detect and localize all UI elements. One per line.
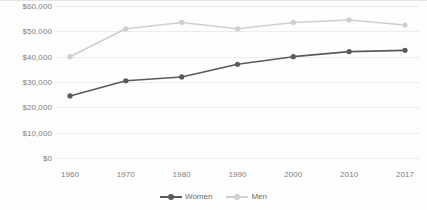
series-men xyxy=(67,17,407,59)
series-line xyxy=(70,50,405,96)
data-point xyxy=(123,78,128,83)
legend-item-men[interactable]: Men xyxy=(226,193,267,201)
data-point xyxy=(235,26,240,31)
legend-item-women[interactable]: Women xyxy=(160,193,212,201)
x-axis-tick-label: 2000 xyxy=(284,170,302,179)
legend-label: Men xyxy=(251,193,267,201)
y-axis-tick-label: $10,000 xyxy=(0,128,52,137)
y-axis-tick-label: $0 xyxy=(0,154,52,163)
data-point xyxy=(179,20,184,25)
plot-area xyxy=(56,6,419,158)
gridline xyxy=(56,158,419,159)
legend-marker-icon xyxy=(160,193,182,201)
data-point xyxy=(179,74,184,79)
data-point xyxy=(402,22,407,27)
data-series-layer xyxy=(56,6,419,158)
legend-marker-icon xyxy=(226,193,248,201)
x-axis-tick-label: 1970 xyxy=(117,170,135,179)
y-axis-tick-label: $40,000 xyxy=(0,52,52,61)
x-axis-tick-label: 2010 xyxy=(340,170,358,179)
x-axis-tick-label: 1980 xyxy=(173,170,191,179)
data-point xyxy=(291,54,296,59)
data-point xyxy=(402,48,407,53)
x-axis-tick-label: 1960 xyxy=(61,170,79,179)
series-women xyxy=(67,48,407,99)
chart-top-border xyxy=(0,0,427,1)
chart-legend: WomenMen xyxy=(0,193,427,201)
y-axis-tick-label: $30,000 xyxy=(0,78,52,87)
data-point xyxy=(235,62,240,67)
data-point xyxy=(67,93,72,98)
x-axis-tick-label: 2017 xyxy=(396,170,414,179)
data-point xyxy=(347,17,352,22)
y-axis-tick-label: $20,000 xyxy=(0,103,52,112)
legend-label: Women xyxy=(185,193,212,201)
x-axis-tick-labels: 1960197019801990200020102017 xyxy=(56,170,419,184)
data-point xyxy=(67,54,72,59)
data-point xyxy=(291,20,296,25)
data-point xyxy=(123,26,128,31)
y-axis-tick-label: $50,000 xyxy=(0,27,52,36)
x-axis-tick-label: 1990 xyxy=(228,170,246,179)
data-point xyxy=(347,49,352,54)
y-axis-tick-label: $60,000 xyxy=(0,2,52,11)
chart-container: $0$10,000$20,000$30,000$40,000$50,000$60… xyxy=(0,0,427,210)
